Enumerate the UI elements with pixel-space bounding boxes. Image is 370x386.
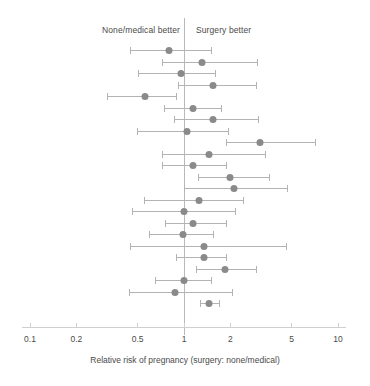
- ci-upper-cap: [315, 139, 316, 146]
- ci-lower-cap: [184, 185, 185, 192]
- forest-row: [0, 138, 370, 147]
- ci-lower-cap: [129, 289, 130, 296]
- effect-estimate-marker: [227, 174, 234, 181]
- ci-lower-cap: [144, 197, 145, 204]
- forest-row: [0, 253, 370, 262]
- ci-upper-cap: [256, 266, 257, 273]
- ci-lower-cap: [107, 93, 108, 100]
- forest-row: [0, 69, 370, 78]
- x-tick: [291, 323, 292, 327]
- ci-lower-cap: [162, 151, 163, 158]
- ci-upper-cap: [287, 185, 288, 192]
- ci-lower-cap: [137, 128, 138, 135]
- forest-row: [0, 81, 370, 90]
- ci-upper-cap: [211, 277, 212, 284]
- x-tick: [137, 323, 138, 327]
- ci-lower-cap: [200, 300, 201, 307]
- effect-estimate-marker: [179, 231, 186, 238]
- forest-row: [0, 219, 370, 228]
- confidence-interval-line: [144, 200, 244, 201]
- effect-estimate-marker: [190, 105, 197, 112]
- ci-upper-cap: [286, 243, 287, 250]
- effect-estimate-marker: [166, 47, 173, 54]
- x-tick: [76, 323, 77, 327]
- ci-upper-cap: [226, 220, 227, 227]
- forest-row: [0, 58, 370, 67]
- forest-row: [0, 288, 370, 297]
- confidence-interval-line: [199, 177, 270, 178]
- annotation-surgery-better: Surgery better: [196, 25, 251, 35]
- forest-plot: None/medical better Surgery better 0.10.…: [0, 0, 370, 386]
- x-tick-label: 0.1: [24, 334, 36, 344]
- ci-lower-cap: [162, 162, 163, 169]
- forest-row: [0, 173, 370, 182]
- x-tick-label: 2: [228, 334, 233, 344]
- forest-row: [0, 242, 370, 251]
- ci-lower-cap: [198, 174, 199, 181]
- ci-upper-cap: [243, 197, 244, 204]
- effect-estimate-marker: [210, 116, 217, 123]
- ci-upper-cap: [215, 70, 216, 77]
- effect-estimate-marker: [201, 243, 208, 250]
- effect-estimate-marker: [205, 300, 212, 307]
- ci-upper-cap: [235, 208, 236, 215]
- effect-estimate-marker: [205, 151, 212, 158]
- forest-row: [0, 230, 370, 239]
- forest-row: [0, 207, 370, 216]
- ci-upper-cap: [269, 174, 270, 181]
- ci-lower-cap: [226, 139, 227, 146]
- ci-upper-cap: [221, 105, 222, 112]
- effect-estimate-marker: [198, 59, 205, 66]
- ci-upper-cap: [256, 82, 257, 89]
- ci-lower-cap: [162, 59, 163, 66]
- ci-upper-cap: [265, 151, 266, 158]
- x-tick-label: 1: [182, 334, 187, 344]
- x-axis-title: Relative risk of pregnancy (surgery: non…: [0, 355, 370, 365]
- ci-lower-cap: [165, 220, 166, 227]
- x-axis-line: [22, 327, 346, 328]
- forest-row: [0, 150, 370, 159]
- effect-estimate-marker: [256, 139, 263, 146]
- forest-row: [0, 184, 370, 193]
- effect-estimate-marker: [222, 266, 229, 273]
- effect-estimate-marker: [210, 82, 217, 89]
- forest-row: [0, 265, 370, 274]
- forest-row: [0, 115, 370, 124]
- ci-upper-cap: [228, 128, 229, 135]
- confidence-interval-line: [178, 85, 256, 86]
- forest-row: [0, 196, 370, 205]
- ci-upper-cap: [226, 254, 227, 261]
- confidence-interval-line: [129, 292, 232, 293]
- ci-lower-cap: [130, 243, 131, 250]
- effect-estimate-marker: [230, 185, 237, 192]
- ci-lower-cap: [132, 208, 133, 215]
- x-tick: [184, 323, 185, 327]
- forest-row: [0, 127, 370, 136]
- ci-upper-cap: [232, 289, 233, 296]
- ci-lower-cap: [138, 70, 139, 77]
- effect-estimate-marker: [190, 220, 197, 227]
- ci-upper-cap: [211, 47, 212, 54]
- x-tick-label: 10: [333, 334, 342, 344]
- x-tick-label: 0.2: [70, 334, 82, 344]
- ci-lower-cap: [155, 277, 156, 284]
- x-tick: [338, 323, 339, 327]
- forest-row: [0, 46, 370, 55]
- effect-estimate-marker: [142, 93, 149, 100]
- effect-estimate-marker: [172, 289, 179, 296]
- x-tick: [230, 323, 231, 327]
- effect-estimate-marker: [184, 128, 191, 135]
- ci-upper-cap: [219, 300, 220, 307]
- effect-estimate-marker: [181, 277, 188, 284]
- forest-row: [0, 299, 370, 308]
- confidence-interval-line: [227, 142, 315, 143]
- ci-lower-cap: [178, 82, 179, 89]
- effect-estimate-marker: [177, 70, 184, 77]
- ci-lower-cap: [174, 116, 175, 123]
- ci-lower-cap: [196, 266, 197, 273]
- ci-upper-cap: [213, 231, 214, 238]
- confidence-interval-line: [162, 154, 266, 155]
- forest-row: [0, 276, 370, 285]
- confidence-interval-line: [131, 246, 286, 247]
- effect-estimate-marker: [181, 208, 188, 215]
